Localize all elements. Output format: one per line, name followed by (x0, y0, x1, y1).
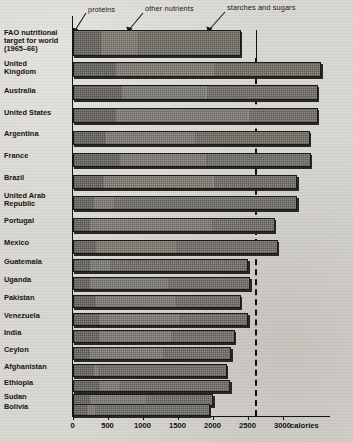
row-label-1: United Kingdom (4, 60, 66, 76)
bar-segment-proteins-13 (74, 314, 99, 325)
bar-segment-other_nutrients-15 (89, 348, 163, 359)
x-tick-label-3000: 3000 (274, 421, 291, 430)
bar-segment-proteins-11 (74, 278, 90, 289)
bar-segment-starches_and_sugars-16 (99, 365, 226, 376)
bar-segment-starches_and_sugars-7 (114, 197, 297, 209)
bar-segment-starches_and_sugars-9 (177, 241, 278, 253)
bar-segment-other_nutrients-14 (99, 331, 170, 342)
x-tick-1500 (178, 417, 179, 420)
row-label-3: United States (4, 109, 66, 117)
fao-calorie-intake-chart: proteins other nutrients starches and su… (0, 0, 353, 442)
x-tick-1000 (143, 417, 144, 420)
fao-target-line-solid (256, 30, 257, 58)
bar-segment-starches_and_sugars-3 (249, 109, 318, 122)
x-tick-label-1500: 1500 (169, 421, 186, 430)
bar-17[interactable] (73, 380, 231, 392)
bar-segment-other_nutrients-17 (99, 381, 120, 391)
x-tick-label-1000: 1000 (134, 421, 151, 430)
bar-segment-proteins-15 (74, 348, 89, 359)
bar-2[interactable] (73, 85, 318, 100)
bar-segment-starches_and_sugars-6 (214, 176, 298, 188)
bar-segment-starches_and_sugars-12 (176, 296, 241, 307)
bar-segment-proteins-1 (74, 63, 116, 76)
bar-14[interactable] (73, 330, 235, 343)
row-label-16: Afghanistan (4, 363, 66, 371)
bar-4[interactable] (73, 131, 310, 145)
bar-19[interactable] (73, 404, 210, 416)
bar-segment-proteins-7 (74, 197, 94, 209)
x-tick-500 (108, 417, 109, 420)
bar-segment-other_nutrients-11 (90, 278, 170, 289)
bar-8[interactable] (73, 218, 275, 232)
row-label-6: Brazil (4, 174, 66, 182)
bar-segment-starches_and_sugars-19 (95, 405, 210, 415)
bar-segment-starches_and_sugars-15 (163, 348, 231, 359)
bar-segment-starches_and_sugars-0 (138, 31, 241, 55)
row-label-15: Ceylon (4, 346, 66, 354)
bar-3[interactable] (73, 108, 318, 123)
row-label-8: Portugal (4, 217, 66, 225)
x-tick-2500 (248, 417, 249, 420)
bar-segment-proteins-10 (74, 260, 91, 271)
bar-segment-starches_and_sugars-8 (212, 219, 275, 231)
bar-segment-proteins-16 (74, 365, 94, 376)
bar-7[interactable] (73, 196, 298, 210)
bar-segment-other_nutrients-2 (122, 86, 207, 99)
bar-segment-proteins-17 (74, 381, 100, 391)
bar-segment-other_nutrients-9 (96, 241, 177, 253)
bar-segment-proteins-12 (74, 296, 95, 307)
row-label-19: Bolivia (4, 403, 66, 411)
bar-segment-proteins-4 (74, 132, 106, 144)
bar-10[interactable] (73, 259, 249, 272)
bar-segment-other_nutrients-10 (90, 260, 110, 271)
bar-5[interactable] (73, 153, 311, 167)
bar-segment-starches_and_sugars-2 (207, 86, 318, 99)
row-label-9: Mexico (4, 239, 66, 247)
x-tick-0 (73, 417, 74, 420)
bar-segment-other_nutrients-12 (95, 296, 176, 307)
x-tick-label-2000: 2000 (204, 421, 221, 430)
bar-9[interactable] (73, 240, 278, 254)
x-tick-label-0: 0 (70, 421, 74, 430)
bar-segment-other_nutrients-5 (120, 154, 208, 166)
bar-0[interactable] (73, 30, 241, 56)
bar-segment-proteins-5 (74, 154, 120, 166)
row-label-17: Ethiopia (4, 379, 66, 387)
bar-1[interactable] (73, 62, 322, 77)
bar-segment-other_nutrients-4 (105, 132, 195, 144)
row-label-4: Argentina (4, 130, 66, 138)
row-label-2: Australia (4, 87, 66, 95)
bar-13[interactable] (73, 313, 249, 326)
x-tick-label-500: 500 (101, 421, 114, 430)
bar-segment-other_nutrients-13 (99, 314, 180, 325)
row-label-12: Pakistan (4, 294, 66, 302)
bar-segment-starches_and_sugars-13 (180, 314, 248, 325)
bar-segment-proteins-0 (74, 31, 101, 55)
bar-16[interactable] (73, 364, 227, 377)
bar-segment-proteins-6 (74, 176, 103, 188)
bar-15[interactable] (73, 347, 232, 360)
row-label-14: India (4, 329, 66, 337)
bar-6[interactable] (73, 175, 298, 189)
row-label-7: United Arab Republic (4, 192, 66, 208)
bar-segment-other_nutrients-8 (90, 219, 213, 231)
bar-segment-other_nutrients-1 (116, 63, 214, 76)
bar-segment-starches_and_sugars-14 (171, 331, 235, 342)
bar-segment-other_nutrients-19 (87, 405, 95, 415)
bar-segment-starches_and_sugars-10 (110, 260, 248, 271)
bar-segment-proteins-14 (74, 331, 100, 342)
bar-segment-starches_and_sugars-4 (195, 132, 310, 144)
x-axis-unit-label: calories (290, 421, 319, 430)
row-label-11: Uganda (4, 276, 66, 284)
x-tick-label-2500: 2500 (239, 421, 256, 430)
bar-11[interactable] (73, 277, 251, 290)
bar-segment-proteins-19 (74, 405, 87, 415)
row-label-5: France (4, 152, 66, 160)
bar-segment-starches_and_sugars-17 (120, 381, 230, 391)
bar-segment-other_nutrients-3 (116, 109, 248, 122)
bar-segment-proteins-9 (74, 241, 96, 253)
bar-segment-other_nutrients-7 (94, 197, 114, 209)
row-label-13: Venezuela (4, 312, 66, 320)
bar-12[interactable] (73, 295, 241, 308)
x-tick-3000 (283, 417, 284, 420)
